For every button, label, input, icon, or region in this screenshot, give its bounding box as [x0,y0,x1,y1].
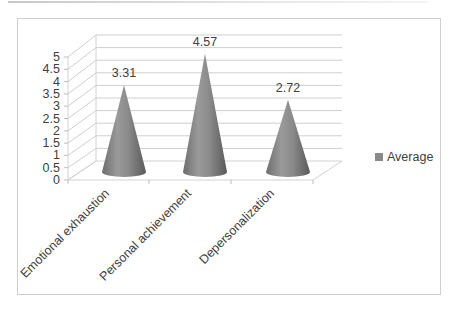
y-tick-label: 3.5 [43,87,60,101]
cone-3: 2.72 [266,81,310,177]
data-label: 4.57 [193,35,217,49]
y-tick-label: 4.5 [43,62,60,76]
legend-swatch-average [375,153,383,161]
data-label: 2.72 [276,81,300,95]
legend-label-average: Average [387,150,433,164]
y-tick-label: 0 [53,173,60,187]
y-axis-tick-labels: 00.511.522.533.544.55 [43,50,68,187]
y-tick-label: 2.5 [43,112,60,126]
legend: Average [375,150,433,164]
y-tick-label: 2 [53,124,60,138]
x-axis-category-labels: Emotional exhaustionPersonal achievement… [18,186,277,284]
y-tick-label: 1.5 [43,136,60,150]
y-tick-label: 1 [53,148,60,162]
cone-2: 4.57 [183,35,227,177]
cone-series-average: 3.314.572.72 [102,35,310,177]
cone-1: 3.31 [102,66,146,177]
y-tick-label: 0.5 [43,161,60,175]
data-label: 3.31 [112,66,136,80]
y-tick-label: 5 [53,50,60,64]
x-category-label: Emotional exhaustion [18,186,112,280]
y-tick-label: 4 [53,75,60,89]
x-category-label: Personal achievement [97,186,195,284]
y-tick-label: 3 [53,99,60,113]
x-axis-ticks [68,180,313,184]
x-category-label: Depersonalization [196,186,277,267]
